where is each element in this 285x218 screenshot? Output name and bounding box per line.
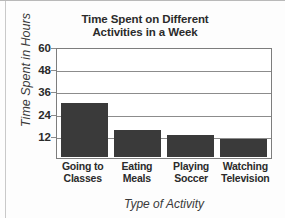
x-category-label-line: Eating	[111, 161, 162, 173]
plot-area	[56, 48, 272, 159]
bar	[220, 139, 267, 157]
y-tick-mark	[51, 48, 56, 49]
y-tick-mark	[51, 137, 56, 138]
chart-title-line-2: Activities in a Week	[30, 26, 260, 39]
page-edge-rule	[5, 1, 6, 218]
x-category-label-line: Meals	[111, 173, 162, 185]
bar-slot	[220, 50, 267, 157]
y-tick-label: 24	[38, 109, 51, 121]
y-tick-mark	[51, 115, 56, 116]
x-category-label-line: Television	[220, 173, 271, 185]
x-category-label-line: Playing	[165, 161, 216, 173]
y-tick-label: 12	[38, 131, 51, 143]
x-category-label: PlayingSoccer	[165, 161, 216, 184]
bar-slot	[114, 50, 161, 157]
chart-title-line-1: Time Spent on Different	[30, 13, 260, 26]
x-axis-title: Type of Activity	[56, 197, 272, 211]
bar-series	[58, 50, 270, 157]
x-axis-category-labels: Going toClassesEatingMealsPlayingSoccerW…	[56, 161, 272, 184]
x-category-label: EatingMeals	[111, 161, 162, 184]
bar	[167, 135, 214, 157]
y-tick-label: 48	[38, 64, 51, 76]
chart-title: Time Spent on Different Activities in a …	[30, 13, 260, 39]
x-category-label: Going toClasses	[57, 161, 108, 184]
y-tick-mark	[51, 92, 56, 93]
plot-wrapper: 1224364860	[56, 48, 272, 159]
x-category-label-line: Soccer	[165, 173, 216, 185]
x-category-label-line: Classes	[57, 173, 108, 185]
chart-figure: Time Spent on Different Activities in a …	[0, 0, 285, 218]
y-tick-mark	[51, 70, 56, 71]
x-category-label-line: Watching	[220, 161, 271, 173]
bar	[114, 130, 161, 157]
y-tick-label: 60	[38, 42, 51, 54]
bar	[61, 103, 108, 158]
x-category-label-line: Going to	[57, 161, 108, 173]
y-axis-title: Time Spent in Hours	[19, 10, 33, 130]
y-tick-label: 36	[38, 86, 51, 98]
x-category-label: WatchingTelevision	[220, 161, 271, 184]
bar-slot	[61, 50, 108, 157]
bar-slot	[167, 50, 214, 157]
